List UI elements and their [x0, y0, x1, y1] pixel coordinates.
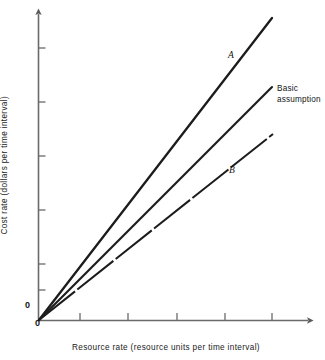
x-axis-title: Resource rate (resource units per time i… [72, 343, 260, 352]
series-label-basic-assumption-line2: assumption [277, 95, 321, 106]
series-line-basic-assumption [39, 87, 272, 320]
series-line-b [39, 134, 273, 320]
origin-label-x-axis: 0 [35, 318, 40, 328]
y-axis-title: Cost rate (dollars per time interval) [0, 96, 9, 235]
chart-plot-area [0, 0, 325, 360]
series-label-basic-assumption: Basic assumption [277, 84, 321, 105]
series-line-a [39, 18, 272, 320]
series-label-a: A [228, 50, 234, 60]
figure-container: 0 0 A Basic assumption B Resource rate (… [0, 0, 325, 360]
series-label-basic-assumption-line1: Basic [277, 84, 321, 95]
series-label-b: B [229, 165, 235, 175]
y-axis-ticks [39, 48, 46, 290]
x-axis-ticks [80, 313, 272, 321]
origin-label-y-axis: 0 [25, 300, 30, 310]
